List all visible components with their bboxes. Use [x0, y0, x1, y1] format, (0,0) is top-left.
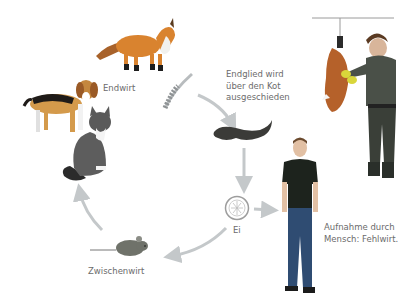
arrow-to-mouse: [172, 228, 226, 256]
arrow-to-cat: [80, 192, 102, 230]
label-segment-line-1: Endglied wird: [226, 69, 290, 81]
tapeworm-illustration: [162, 70, 196, 110]
label-human-accidental-host: Aufnahme durch Mensch: Fehlwirt.: [324, 222, 398, 245]
mouse-illustration: [90, 234, 154, 258]
label-segment-line-3: ausgeschieden: [226, 92, 290, 104]
label-intermediate-host: Zwischenwirt: [88, 266, 144, 278]
label-segment-excretion: Endglied wird über den Kot ausgeschieden: [226, 69, 290, 104]
feces-illustration: [212, 120, 274, 146]
label-human-line-2: Mensch: Fehlwirt.: [324, 234, 398, 246]
label-human-line-1: Aufnahme durch: [324, 222, 398, 234]
hunter-with-fox-illustration: [310, 14, 410, 184]
egg-illustration: [224, 195, 250, 221]
label-final-host: Endwirt: [103, 83, 135, 95]
cat-illustration: [60, 106, 116, 184]
label-egg: Ei: [233, 225, 241, 237]
arrow-to-human: [254, 209, 270, 210]
label-segment-line-2: über den Kot: [226, 81, 290, 93]
fox-illustration: [94, 16, 184, 76]
